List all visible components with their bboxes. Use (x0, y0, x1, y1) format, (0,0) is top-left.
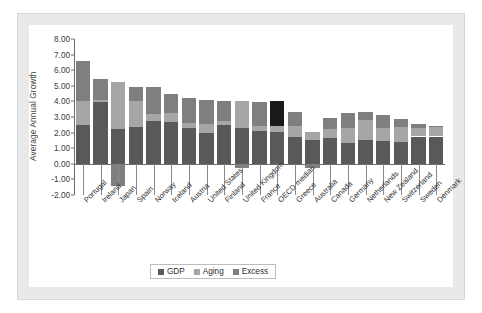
bar-segment-gdp (129, 127, 143, 164)
y-axis-tick-label: -2.00 (40, 191, 70, 200)
bar-segment-gdp (270, 132, 284, 164)
legend-label: Aging (203, 267, 224, 276)
bar-segment-excess (199, 100, 213, 124)
bar-segment-gdp (199, 133, 213, 163)
bar-segment-gdp (305, 140, 319, 164)
y-axis-tick-label: 4.00 (40, 97, 70, 106)
bar-segment-aging (270, 126, 284, 131)
bar-segment-gdp (252, 131, 266, 164)
bar-segment-aging (341, 128, 355, 143)
legend-swatch (194, 269, 200, 275)
bar-segment-aging (252, 126, 266, 131)
bar-segment-excess (358, 112, 372, 120)
bar-segment-aging (288, 126, 302, 137)
bar-segment-aging (358, 120, 372, 140)
bar-segment-aging (217, 121, 231, 125)
legend-item[interactable]: Aging (194, 267, 224, 276)
bar-segment-excess (341, 113, 355, 128)
bar-segment-aging (394, 127, 408, 142)
bar-segment-gdp (394, 142, 408, 164)
bar-segment-gdp (76, 125, 90, 164)
bar-segment-excess (288, 112, 302, 127)
bar-segment-excess (411, 124, 425, 128)
bar-segment-excess (76, 61, 90, 102)
bar-segment-excess (429, 126, 443, 128)
y-axis-title: Average Annual Growth (26, 58, 40, 174)
bar-segment-gdp (429, 137, 443, 164)
bar-segment-gdp (146, 121, 160, 164)
y-axis-ticks: 8.007.006.005.004.003.002.001.000.00-1.0… (40, 30, 70, 206)
bar-segment-aging (146, 114, 160, 121)
y-axis-tick-label: -1.00 (40, 175, 70, 184)
x-axis-labels: PortugalIrelandJapanSpainNorwayIcelandAu… (74, 197, 454, 259)
bar-segment-excess (146, 87, 160, 114)
y-axis-tick-label: 6.00 (40, 66, 70, 75)
legend-swatch (233, 269, 239, 275)
bar-segment-gdp (358, 140, 372, 164)
bar-segment-excess (270, 101, 284, 127)
bar-segment-aging (376, 128, 390, 141)
bar-segment-gdp (111, 129, 125, 163)
bar-segment-gdp (93, 102, 107, 164)
y-axis-tick-label: 8.00 (40, 35, 70, 44)
bar-segment-gdp (411, 137, 425, 164)
bar-segment-aging (93, 100, 107, 102)
bar-segment-excess (323, 118, 337, 130)
legend-swatch (158, 269, 164, 275)
bar-segment-gdp (235, 128, 249, 164)
bar-segment-excess (129, 87, 143, 101)
bar-segment-aging (129, 101, 143, 127)
legend-item[interactable]: GDP (158, 267, 185, 276)
bar-segment-excess (252, 102, 266, 126)
legend-item[interactable]: Excess (233, 267, 268, 276)
bar-segment-excess (217, 101, 231, 121)
legend-label: Excess (242, 267, 268, 276)
y-axis-tick-label: 2.00 (40, 128, 70, 137)
bar-segment-aging (429, 127, 443, 136)
legend-label: GDP (167, 267, 185, 276)
y-axis-tick-label: 0.00 (40, 159, 70, 168)
bar-segment-excess (376, 115, 390, 128)
bar-segment-gdp (341, 143, 355, 164)
bar-segment-gdp (288, 137, 302, 164)
bar-segment-excess (182, 98, 196, 123)
bar-segment-gdp (217, 125, 231, 164)
bar-segment-aging (235, 101, 249, 128)
y-axis-tick-label: 3.00 (40, 113, 70, 122)
y-axis-tick-label: 1.00 (40, 144, 70, 153)
y-axis-tick-label: 7.00 (40, 50, 70, 59)
bar-segment-aging (111, 82, 125, 130)
bar-segment-aging (76, 101, 90, 124)
bar-segment-gdp (164, 122, 178, 164)
bar-segment-gdp (323, 138, 337, 164)
bar-segment-aging (199, 124, 213, 133)
y-axis-tick-label: 5.00 (40, 81, 70, 90)
bar-segment-aging (411, 128, 425, 137)
bar-segment-aging (305, 132, 319, 140)
bar-segment-aging (182, 123, 196, 128)
bar-segment-gdp (376, 141, 390, 164)
bar-segment-excess (93, 79, 107, 100)
bar-segment-excess (164, 94, 178, 113)
plot-area (74, 39, 445, 195)
x-axis-tick-mark (83, 164, 84, 195)
bar-segment-aging (164, 113, 178, 122)
chart-legend: GDPAgingExcess (150, 264, 276, 279)
chart-page: Average Annual Growth 8.007.006.005.004.… (0, 0, 482, 313)
bar-segment-aging (323, 129, 337, 138)
bar-segment-excess (394, 119, 408, 128)
bar-segment-gdp (182, 128, 196, 164)
